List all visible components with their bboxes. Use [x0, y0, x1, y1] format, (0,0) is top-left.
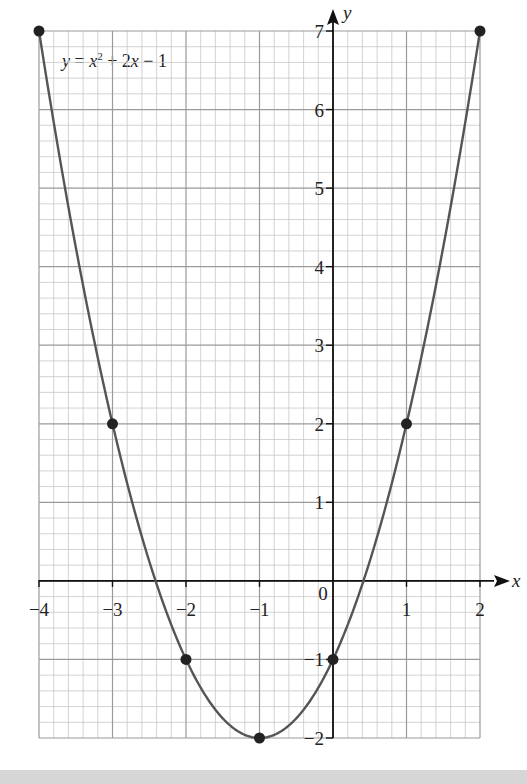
y-tick-label: 2: [315, 414, 325, 435]
y-tick-label: −1: [304, 649, 324, 670]
data-point: [401, 418, 412, 429]
data-point: [254, 733, 265, 744]
major-grid: [39, 31, 480, 738]
data-point: [107, 418, 118, 429]
x-tick-label: 2: [475, 599, 485, 620]
x-tick-label: −1: [249, 599, 269, 620]
x-axis-label: x: [511, 570, 521, 591]
x-tick-label: −4: [29, 599, 50, 620]
page-bottom-band: [0, 770, 527, 784]
y-tick-label: 5: [315, 178, 325, 199]
data-point: [475, 26, 486, 37]
data-point: [181, 654, 192, 665]
x-tick-label: −3: [102, 599, 122, 620]
y-tick-label: 4: [315, 257, 325, 278]
y-tick-label: 6: [315, 100, 325, 121]
parabola-chart: xy −4−3−2−1012−2−11234567: [0, 0, 527, 784]
x-tick-label: 0: [318, 583, 328, 604]
y-axis-label: y: [341, 2, 352, 23]
data-point: [328, 654, 339, 665]
x-tick-label: −2: [176, 599, 196, 620]
x-tick-label: 1: [402, 599, 412, 620]
y-tick-label: 3: [315, 335, 325, 356]
y-tick-label: 7: [315, 21, 325, 42]
axes: xy: [39, 2, 521, 738]
y-tick-label: −2: [304, 728, 324, 749]
x-axis-arrow-icon: [494, 575, 510, 587]
data-point: [34, 26, 45, 37]
y-tick-label: 1: [315, 492, 325, 513]
